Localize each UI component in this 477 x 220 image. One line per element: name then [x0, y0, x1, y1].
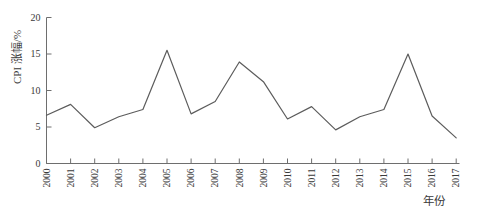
x-tick-label: 2016: [427, 168, 437, 187]
x-tick-label: 2009: [259, 168, 269, 187]
x-tick-label: 2005: [162, 168, 172, 187]
x-tick-label: 2010: [283, 168, 293, 187]
x-tick-label: 2011: [307, 168, 317, 187]
x-tick-label: 2000: [42, 168, 52, 187]
x-tick-label: 2003: [114, 168, 124, 187]
x-tick-label: 2002: [90, 168, 100, 187]
x-tick-label: 2012: [331, 168, 341, 187]
x-axis-title: 年份: [423, 194, 446, 207]
x-tick-label: 2001: [66, 168, 76, 187]
x-tick-label: 2015: [403, 168, 413, 187]
cpi-line-chart: 0510152020002001200220032004200520062007…: [0, 0, 477, 220]
x-tick-label: 2004: [138, 168, 148, 187]
cpi-data-line: [47, 50, 457, 138]
x-tick-label: 2006: [186, 168, 196, 187]
y-tick-label: 5: [36, 121, 41, 132]
x-tick-label: 2014: [379, 168, 389, 187]
x-tick-label: 2007: [210, 168, 220, 187]
cpi-trend-figure: 0510152020002001200220032004200520062007…: [0, 0, 477, 220]
x-tick-label: 2008: [235, 168, 245, 187]
y-tick-label: 15: [31, 48, 41, 59]
x-tick-label: 2013: [355, 168, 365, 187]
y-tick-label: 20: [31, 12, 41, 23]
y-tick-label: 0: [36, 158, 41, 169]
y-tick-label: 10: [31, 85, 41, 96]
y-axis-title: CPI 涨幅/%: [11, 30, 23, 84]
x-tick-label: 2017: [451, 168, 461, 187]
